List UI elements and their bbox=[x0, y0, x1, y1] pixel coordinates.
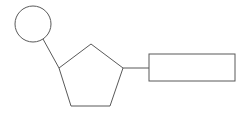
phosphate-circle bbox=[15, 6, 51, 42]
circle-to-pentagon-connector bbox=[43, 39, 59, 68]
base-rectangle bbox=[149, 54, 235, 81]
nucleotide-diagram bbox=[0, 0, 250, 114]
sugar-pentagon bbox=[59, 44, 123, 106]
